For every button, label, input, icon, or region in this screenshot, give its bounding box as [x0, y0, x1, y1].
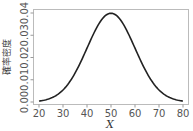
x-tick-label: 20	[33, 108, 46, 119]
y-tick-label: 0.00	[19, 91, 30, 113]
x-axis-label: X	[105, 118, 115, 131]
x-tick-label: 70	[153, 108, 166, 119]
y-tick-label: 0.03	[19, 24, 30, 46]
x-tick-label: 80	[177, 108, 190, 119]
y-tick-label: 0.01	[19, 69, 30, 91]
y-tick-label: 0.04	[19, 2, 30, 24]
density-chart: 0.000.010.020.030.04 20304050607080 X 確率…	[0, 0, 193, 131]
x-tick-label: 30	[57, 108, 70, 119]
density-curve	[39, 13, 183, 101]
y-axis-label: 確率密度	[1, 39, 12, 75]
x-axis: 20304050607080	[33, 105, 190, 120]
x-tick-label: 60	[129, 108, 142, 119]
x-tick-label: 40	[81, 108, 94, 119]
y-axis: 0.000.010.020.030.04	[19, 2, 34, 113]
y-tick-label: 0.02	[19, 46, 30, 68]
plot-frame	[34, 10, 189, 105]
